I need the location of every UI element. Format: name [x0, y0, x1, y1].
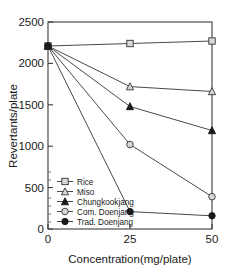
square-icon — [62, 178, 68, 184]
legend-item-miso: Miso — [57, 188, 95, 197]
x-tick-label-0: 0 — [45, 233, 51, 245]
series-lines — [48, 41, 212, 216]
y-axis-title: Revertants/plate — [7, 84, 19, 168]
legend-item-chungkookjang: Chungkookjang — [57, 198, 134, 207]
data-point — [209, 38, 215, 44]
circle-outline-icon — [62, 208, 69, 215]
x-tick-label-50: 50 — [206, 233, 219, 245]
legend-label-com-doenjang: Com. Doenjang — [77, 208, 134, 217]
legend-label-rice: Rice — [77, 178, 94, 187]
legend-item-com-doenjang: Com. Doenjang — [57, 208, 134, 217]
legend-label-trad-doenjang: Trad. Doenjang — [77, 218, 134, 227]
y-tick-label-2000: 2000 — [18, 57, 44, 69]
x-axis-title: Concentration(mg/plate) — [68, 253, 192, 265]
series-markers-miso — [44, 42, 215, 94]
legend-item-trad-doenjang: Trad. Doenjang — [57, 218, 134, 227]
chart-legend: Rice Miso Chungkookjang Com. Doenjang — [57, 178, 134, 227]
legend-item-rice: Rice — [57, 178, 94, 187]
y-tick-label-500: 500 — [25, 182, 44, 194]
y-tick-label-2500: 2500 — [18, 16, 44, 28]
chart-figure: 0 500 1000 1500 2000 2500 0 25 50 Revert… — [0, 0, 230, 273]
legend-label-chungkookjang: Chungkookjang — [77, 198, 134, 207]
y-tick-label-1000: 1000 — [18, 140, 44, 152]
legend-label-miso: Miso — [77, 188, 95, 197]
series-line-com-doenjang — [48, 46, 212, 197]
series-markers-rice — [45, 38, 215, 49]
line-chart: 0 500 1000 1500 2000 2500 0 25 50 Revert… — [0, 0, 230, 273]
circle-filled-icon — [62, 218, 68, 224]
data-point — [127, 40, 133, 46]
y-tick-label-0: 0 — [38, 223, 44, 235]
data-point — [126, 103, 133, 110]
data-point — [127, 141, 134, 148]
data-point — [209, 193, 216, 200]
data-point — [45, 43, 51, 49]
y-tick-label-1500: 1500 — [18, 99, 44, 111]
data-point — [209, 213, 215, 219]
series-markers-trad-doenjang — [45, 43, 215, 219]
x-tick-label-25: 25 — [124, 233, 137, 245]
series-line-trad-doenjang — [48, 46, 212, 216]
series-markers-com-doenjang — [45, 43, 216, 200]
